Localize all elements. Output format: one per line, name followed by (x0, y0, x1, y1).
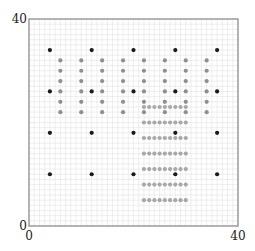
data-point (184, 136, 188, 140)
data-point (158, 136, 162, 140)
data-point (152, 167, 156, 171)
data-point (142, 183, 146, 187)
data-point (142, 151, 146, 155)
data-point (90, 131, 94, 135)
data-point (100, 89, 104, 93)
data-point (163, 79, 167, 83)
data-point (184, 79, 188, 83)
data-point (58, 58, 62, 62)
data-point (79, 100, 83, 104)
data-point (158, 120, 162, 124)
data-point (163, 198, 167, 202)
data-point (90, 172, 94, 176)
data-point (178, 136, 182, 140)
data-point (100, 100, 104, 104)
data-point (163, 58, 167, 62)
data-point (178, 183, 182, 187)
data-point (173, 48, 177, 52)
data-point (152, 198, 156, 202)
data-point (131, 48, 135, 52)
data-point (147, 120, 151, 124)
data-point (100, 110, 104, 114)
data-point (142, 167, 146, 171)
data-point (147, 167, 151, 171)
data-point (168, 136, 172, 140)
data-point (184, 105, 188, 109)
data-point (147, 198, 151, 202)
data-point (48, 172, 52, 176)
data-point (58, 89, 62, 93)
data-point (152, 120, 156, 124)
data-point (147, 183, 151, 187)
data-point (58, 110, 62, 114)
data-point (158, 151, 162, 155)
data-point (142, 198, 146, 202)
data-point (184, 183, 188, 187)
data-point (173, 198, 177, 202)
data-point (131, 131, 135, 135)
data-point (205, 79, 209, 83)
data-point (205, 69, 209, 73)
data-point (215, 131, 219, 135)
data-point (121, 58, 125, 62)
data-point (100, 69, 104, 73)
data-point (215, 48, 219, 52)
data-point (215, 89, 219, 93)
data-point (142, 69, 146, 73)
data-point (163, 100, 167, 104)
data-point (168, 151, 172, 155)
data-point (163, 120, 167, 124)
data-point (184, 167, 188, 171)
data-point (184, 120, 188, 124)
data-point (147, 136, 151, 140)
data-point (173, 131, 177, 135)
data-point (168, 120, 172, 124)
data-point (121, 110, 125, 114)
data-point (48, 48, 52, 52)
data-point (173, 105, 177, 109)
data-point (152, 183, 156, 187)
data-point (184, 198, 188, 202)
data-point (163, 105, 167, 109)
data-point (163, 110, 167, 114)
x-tick-label: 0 (25, 229, 33, 243)
data-point (79, 110, 83, 114)
data-point (184, 110, 188, 114)
data-point (205, 89, 209, 93)
data-point (173, 172, 177, 176)
data-point (131, 172, 135, 176)
data-point (205, 58, 209, 62)
data-point (168, 167, 172, 171)
data-point (178, 120, 182, 124)
data-point (58, 79, 62, 83)
data-point (142, 110, 146, 114)
data-point (173, 183, 177, 187)
data-point (163, 183, 167, 187)
data-point (178, 167, 182, 171)
data-point (152, 151, 156, 155)
data-point (142, 89, 146, 93)
data-point (178, 105, 182, 109)
data-point (178, 151, 182, 155)
data-point (142, 100, 146, 104)
x-tick-label: 40 (230, 229, 245, 243)
data-point (152, 136, 156, 140)
data-point (90, 48, 94, 52)
data-point (58, 100, 62, 104)
data-point (121, 89, 125, 93)
data-point (158, 167, 162, 171)
scatter-chart: 040040 (0, 0, 255, 251)
data-point (215, 172, 219, 176)
data-point (79, 58, 83, 62)
data-point (173, 89, 177, 93)
data-point (121, 79, 125, 83)
data-point (142, 136, 146, 140)
data-point (184, 151, 188, 155)
data-point (152, 105, 156, 109)
data-point (158, 198, 162, 202)
data-point (173, 120, 177, 124)
data-point (178, 198, 182, 202)
data-point (48, 131, 52, 135)
data-point (173, 167, 177, 171)
data-point (163, 69, 167, 73)
